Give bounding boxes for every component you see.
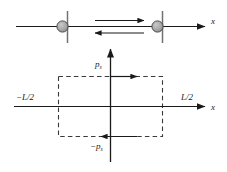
top-axis-x-label: x [211, 17, 215, 26]
x-tick-label-negative-half-l: −L/2 [16, 93, 34, 102]
momentum-negative-label: −ps [90, 142, 103, 151]
figure-canvas [0, 0, 227, 172]
momentum-negative-symbol: −p [90, 141, 101, 151]
momentum-negative-subscript: s [101, 146, 103, 152]
bottom-axis-x-label: x [211, 103, 215, 112]
momentum-positive-label: ps [95, 60, 102, 69]
momentum-positive-subscript: s [100, 64, 102, 70]
panel-bottom-group [14, 49, 205, 162]
physics-figure: x x ps −ps −L/2 L/2 [0, 0, 227, 172]
x-tick-label-positive-half-l: L/2 [181, 93, 193, 102]
right-wall-circle [152, 21, 163, 32]
panel-top-group [16, 11, 205, 43]
left-wall-circle [57, 21, 68, 32]
momentum-positive-symbol: p [95, 59, 100, 69]
